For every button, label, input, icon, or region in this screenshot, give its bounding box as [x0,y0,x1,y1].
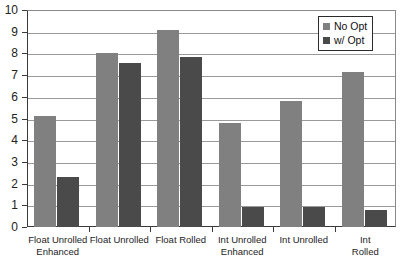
y-tick-label: 7 [11,69,18,81]
x-tick-mark [89,227,90,232]
y-tick-label: 6 [11,91,18,103]
x-tick-mark [273,227,274,232]
y-tick-label: 10 [5,4,18,16]
y-tick-label: 1 [11,199,18,211]
bar [242,207,264,227]
x-category-label: Float Rolled [155,234,206,246]
bar [280,101,302,227]
x-category-label: Int Unrolled [279,234,328,246]
y-tick-label: 9 [11,26,18,38]
legend-swatch-icon [323,37,330,44]
legend-label: w/ Opt [334,35,364,46]
x-axis: Float Unrolled EnhancedFloat UnrolledFlo… [27,234,396,266]
legend-item-w-opt: w/ Opt [323,33,367,47]
legend-label: No Opt [334,21,367,32]
y-tick-mark [22,227,27,228]
bar [219,123,241,227]
y-tick-label: 2 [11,178,18,190]
x-category-label: Int Rolled [350,234,381,257]
bar [119,63,141,227]
bar [303,207,325,227]
bar [180,57,202,227]
bar [365,210,387,227]
bar [96,53,118,227]
bar-chart: 012345678910 Float Unrolled EnhancedFloa… [0,0,405,266]
chart-legend: No Opt w/ Opt [318,16,373,51]
bar [34,116,56,227]
x-category-label: Int Unrolled Enhanced [218,234,267,257]
y-tick-label: 4 [11,134,18,146]
legend-swatch-icon [323,23,330,30]
y-tick-label: 8 [11,47,18,59]
y-tick-label: 5 [11,113,18,125]
legend-item-no-opt: No Opt [323,19,367,33]
x-category-label: Float Unrolled [90,234,149,246]
x-tick-mark [212,227,213,232]
y-tick-label: 3 [11,156,18,168]
x-tick-mark [150,227,151,232]
x-category-label: Float Unrolled Enhanced [28,234,87,257]
bar [157,30,179,227]
bar [342,72,364,227]
y-tick-label: 0 [11,221,18,233]
bar [57,177,79,227]
x-tick-mark [335,227,336,232]
